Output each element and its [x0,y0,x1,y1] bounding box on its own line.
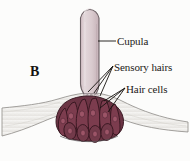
diagram-canvas [0,0,190,161]
label-hair-cells: Hair cells [126,83,167,95]
label-sensory-hairs: Sensory hairs [114,61,172,73]
cupula-structure [81,9,100,95]
neuromast-cupula-diagram: B Cupula Sensory hairs Hair cells [0,0,190,161]
label-cupula: Cupula [117,35,148,47]
panel-letter-b: B [30,64,39,80]
